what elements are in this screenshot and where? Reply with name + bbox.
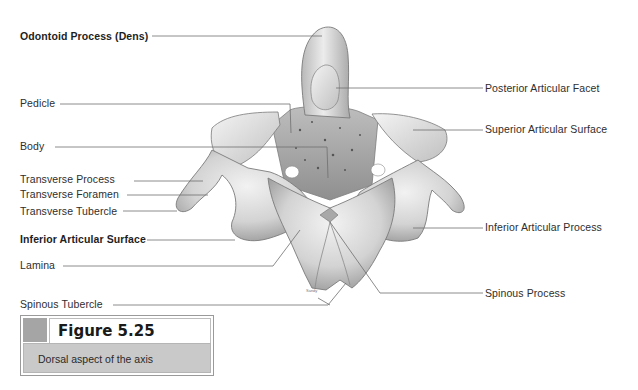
anatomy-figure: Sandy Odontoid Process (Dens) Pedicle Bo…	[0, 0, 638, 390]
figure-caption: Dorsal aspect of the axis	[38, 353, 153, 365]
label-lamina: Lamina	[20, 259, 55, 271]
label-inferior-articular-surface: Inferior Articular Surface	[20, 233, 146, 245]
label-inferior-articular-process: Inferior Articular Process	[485, 221, 602, 233]
label-spinous-process: Spinous Process	[485, 287, 565, 299]
label-pedicle: Pedicle	[20, 97, 55, 109]
right-superior-articular-surface	[372, 114, 447, 162]
figure-title-cell: Figure 5.25	[49, 318, 211, 343]
figure-caption-box: Figure 5.25 Dorsal aspect of the axis	[20, 315, 214, 376]
label-posterior-articular-facet: Posterior Articular Facet	[485, 82, 600, 94]
figure-number: Figure 5.25	[58, 322, 155, 340]
label-transverse-tubercle: Transverse Tubercle	[20, 205, 117, 217]
label-transverse-process: Transverse Process	[20, 173, 115, 185]
label-spinous-tubercle: Spinous Tubercle	[20, 298, 103, 310]
figure-caption-cell: Dorsal aspect of the axis	[23, 343, 211, 373]
svg-text:Sandy: Sandy	[306, 288, 317, 293]
label-odontoid-process: Odontoid Process (Dens)	[20, 30, 148, 42]
figure-swatch	[23, 318, 47, 342]
label-superior-articular-surface: Superior Articular Surface	[485, 123, 607, 135]
label-body: Body	[20, 140, 44, 152]
odontoid-process	[302, 27, 350, 118]
label-transverse-foramen: Transverse Foramen	[20, 188, 119, 200]
